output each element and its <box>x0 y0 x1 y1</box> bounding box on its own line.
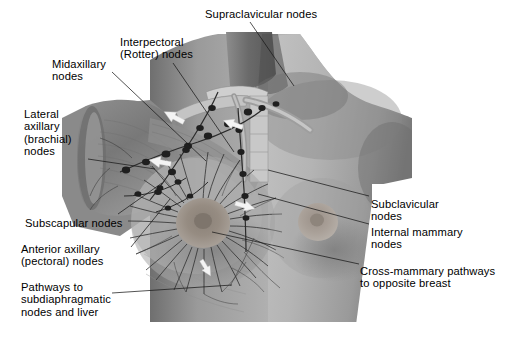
label-interpectoral-rotter-nodes: Interpectoral (Rotter) nodes <box>120 36 193 61</box>
label-subscapular-nodes: Subscapular nodes <box>25 217 122 229</box>
label-supraclavicular-nodes: Supraclavicular nodes <box>205 8 317 20</box>
nipple-right <box>310 214 324 227</box>
figure-canvas: Supraclavicular nodes Interpectoral (Rot… <box>0 0 513 339</box>
label-anterior-axillary-nodes: Anterior axillary (pectoral) nodes <box>21 243 103 268</box>
label-internal-mammary-nodes: Internal mammary nodes <box>371 226 463 251</box>
label-midaxillary-nodes: Midaxillary nodes <box>52 58 106 83</box>
label-lateral-axillary-nodes: Lateral axillary (brachial) nodes <box>24 108 72 158</box>
label-pathways-subdiaphragmatic: Pathways to subdiaphragmatic nodes and l… <box>21 281 111 318</box>
nipple-left <box>194 213 212 229</box>
label-cross-mammary-pathways: Cross-mammary pathways to opposite breas… <box>360 265 495 290</box>
label-subclavicular-nodes: Subclavicular nodes <box>371 198 439 223</box>
